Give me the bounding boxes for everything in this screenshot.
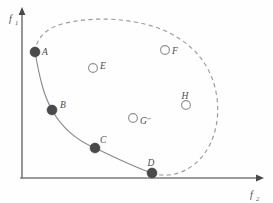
point-label-d: D [147, 158, 155, 168]
x-axis-arrow-icon [256, 175, 264, 182]
point-label-a: A [41, 47, 48, 57]
point-label-e: E [99, 61, 106, 71]
point-label-g: G [140, 116, 147, 126]
data-point-h[interactable] [182, 101, 191, 110]
data-point-e[interactable] [89, 64, 98, 73]
data-point-d[interactable] [147, 168, 157, 178]
point-label-h: H [181, 91, 190, 101]
data-point-g[interactable] [129, 114, 138, 123]
feasible-region-boundary-curve [35, 19, 218, 175]
data-point-a[interactable] [30, 47, 40, 57]
objective-space-plot: f 1 f 2 ABCD EFGH [0, 0, 273, 203]
point-label-b: B [60, 100, 66, 110]
x-axis-label-text: f [250, 189, 254, 200]
point-label-f: F [171, 46, 178, 56]
y-axis-label-text: f [9, 13, 13, 24]
dominated-points-group: EFGH [89, 46, 191, 127]
figure-container: f 1 f 2 ABCD EFGH [0, 0, 273, 203]
data-point-f[interactable] [161, 46, 170, 55]
x-axis-label-subscript: 2 [256, 195, 260, 202]
point-label-c: C [100, 135, 107, 145]
data-point-b[interactable] [47, 105, 57, 115]
x-axis-label: f 2 [250, 189, 260, 202]
y-axis-label: f 1 [9, 13, 18, 26]
y-axis-arrow-icon [19, 7, 26, 15]
y-axis-label-subscript: 1 [15, 19, 18, 26]
data-point-c[interactable] [90, 143, 100, 153]
scan-artifact-mark [147, 118, 151, 119]
axes-group [19, 7, 264, 181]
